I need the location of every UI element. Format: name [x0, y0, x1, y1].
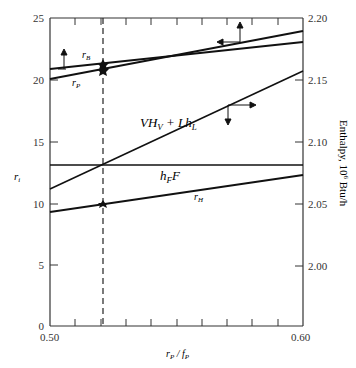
- left-ticks: [50, 80, 58, 265]
- label-vhv-lhl: VHV + LhL: [140, 115, 197, 132]
- y-left-tick-5: 5: [39, 259, 45, 271]
- y-right-tick-2-20: 2.20: [308, 12, 328, 24]
- y-right-tick-2-00: 2.00: [308, 260, 328, 272]
- star-icon: [97, 65, 109, 76]
- y-right-axis-label: Enthalpy, 106 Btu/h: [338, 120, 350, 207]
- chart: 25 20 15 10 5 0 2.20 2.15 2.10 2.05 2.00…: [0, 0, 356, 368]
- y-left-tick-25: 25: [33, 12, 45, 24]
- y-left-tick-10: 10: [33, 198, 45, 210]
- axis-arrow-left: [58, 49, 67, 69]
- x-tick-0-50: 0.50: [40, 331, 60, 343]
- y-left-tick-15: 15: [33, 136, 45, 148]
- y-right-tick-2-15: 2.15: [308, 74, 328, 86]
- x-axis-label: rP / fP: [166, 348, 190, 361]
- axis-arrow-right-mid: [225, 102, 256, 125]
- axis-arrow-right-top: [217, 22, 243, 45]
- label-rB: rB: [82, 49, 91, 62]
- label-rP: rP: [72, 77, 81, 90]
- x-tick-0-60: 0.60: [291, 331, 311, 343]
- y-left-axis-label: ri: [14, 170, 20, 184]
- label-rH: rH: [194, 191, 204, 204]
- label-hff: hFF: [160, 168, 181, 185]
- y-right-tick-2-10: 2.10: [308, 136, 328, 148]
- y-right-tick-2-05: 2.05: [308, 198, 328, 210]
- right-ticks: [295, 80, 303, 266]
- star-icon: [98, 200, 108, 208]
- y-left-tick-20: 20: [33, 74, 45, 86]
